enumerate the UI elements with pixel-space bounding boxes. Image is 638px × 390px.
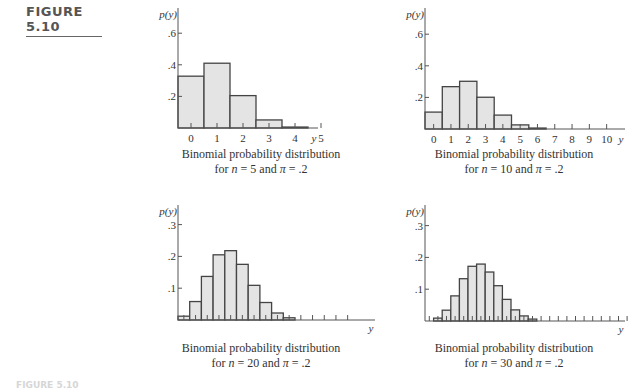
- histogram-bar: [248, 285, 260, 320]
- x-tick-label: 2: [466, 133, 472, 145]
- histogram-bar: [213, 255, 225, 320]
- x-tick-label: 4: [292, 132, 298, 144]
- histogram-bar: [494, 286, 503, 321]
- x-tick-label: 1: [448, 133, 454, 145]
- y-axis-label: p(y): [405, 205, 424, 218]
- y-tick-label: .6: [168, 27, 177, 39]
- x-tick-label: 2: [240, 132, 246, 144]
- y-tick-label: .2: [415, 91, 423, 103]
- x-tick-label: 0: [188, 132, 194, 144]
- histogram-bar: [178, 76, 204, 128]
- x-axis-label: y: [368, 322, 374, 334]
- chart-n10: .2.4.6p(y)012345678910y: [405, 8, 625, 145]
- y-tick-label: .1: [168, 282, 176, 294]
- x-tick-label: 10: [601, 133, 613, 145]
- histogram-bar: [225, 251, 237, 320]
- chart-n20: .1.2.3p(y)y: [158, 205, 375, 334]
- caption-n10: Binomial probability distribution for n …: [404, 147, 624, 177]
- x-tick-label: 5: [517, 133, 523, 145]
- caption-params: for n = 10 and π = .2: [404, 162, 624, 177]
- x-tick-label: 8: [569, 133, 575, 145]
- y-tick-label: .3: [168, 219, 177, 231]
- chart-n5: .2.4.6p(y)012345y: [158, 8, 324, 144]
- x-tick-label: 3: [266, 132, 272, 144]
- caption-title: Binomial probability distribution: [404, 147, 624, 162]
- y-axis-label: p(y): [158, 205, 177, 218]
- histogram-bar: [485, 272, 494, 321]
- histogram-bar: [459, 279, 468, 321]
- caption-n30: Binomial probability distribution for n …: [404, 341, 624, 371]
- chart-n30: .1.2.3p(y)y: [405, 205, 627, 335]
- footer-figure-label: FIGURE 5.10: [16, 380, 79, 390]
- y-tick-label: .1: [415, 283, 423, 295]
- y-tick-label: .6: [415, 28, 424, 40]
- caption-n5: Binomial probability distribution for n …: [151, 147, 371, 177]
- x-tick-label: 7: [552, 133, 558, 145]
- x-tick-label: 4: [500, 133, 506, 145]
- y-axis-label: p(y): [405, 8, 424, 21]
- y-tick-label: .2: [168, 250, 176, 262]
- y-tick-label: .3: [415, 220, 424, 232]
- x-tick-label: 6: [535, 133, 541, 145]
- x-tick-label: 3: [483, 133, 489, 145]
- histogram-bar: [460, 81, 477, 129]
- y-tick-label: .4: [415, 60, 424, 72]
- histogram-bar: [442, 87, 459, 129]
- x-axis-label: y: [618, 133, 624, 145]
- y-tick-label: .2: [415, 251, 423, 263]
- histogram-bar: [477, 264, 486, 321]
- x-axis-label: y: [311, 132, 317, 144]
- histogram-bar: [468, 266, 477, 321]
- caption-params: for n = 30 and π = .2: [404, 356, 624, 371]
- x-tick-label: 0: [431, 133, 437, 145]
- caption-n20: Binomial probability distribution for n …: [151, 341, 371, 371]
- caption-params: for n = 20 and π = .2: [151, 356, 371, 371]
- y-axis-label: p(y): [158, 8, 177, 21]
- caption-title: Binomial probability distribution: [151, 147, 371, 162]
- caption-params: for n = 5 and π = .2: [151, 162, 371, 177]
- caption-title: Binomial probability distribution: [404, 341, 624, 356]
- histogram-bar: [201, 276, 213, 320]
- x-axis-label: y: [618, 323, 624, 335]
- x-tick-label: 5: [318, 132, 324, 144]
- x-tick-label: 9: [587, 133, 593, 145]
- histogram-bar: [204, 63, 230, 128]
- x-tick-label: 1: [214, 132, 220, 144]
- y-tick-label: .4: [168, 59, 177, 71]
- histogram-bar: [237, 264, 249, 320]
- caption-title: Binomial probability distribution: [151, 341, 371, 356]
- y-tick-label: .2: [168, 90, 176, 102]
